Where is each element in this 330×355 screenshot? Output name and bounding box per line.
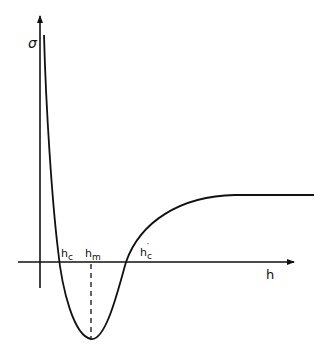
- x-axis-label: h: [266, 267, 274, 282]
- svg-text:h: h: [61, 247, 68, 260]
- hc-label: h c: [61, 247, 73, 262]
- svg-text:m: m: [92, 252, 101, 262]
- diagram-canvas: σ h h c h m h ′ c: [0, 0, 330, 355]
- svg-text:h: h: [85, 247, 92, 260]
- svg-text:h: h: [140, 246, 147, 259]
- hc-prime-label: h ′ c: [140, 242, 152, 261]
- svg-text:c: c: [68, 252, 73, 262]
- hm-label: h m: [85, 247, 101, 262]
- svg-text:c: c: [147, 251, 152, 261]
- sigma-curve: [44, 35, 314, 339]
- y-axis-label: σ: [28, 35, 38, 51]
